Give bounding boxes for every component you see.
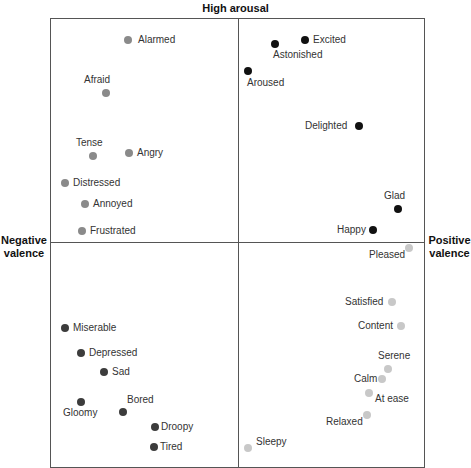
label-astonished: Astonished bbox=[273, 49, 322, 61]
point-glad bbox=[394, 205, 402, 213]
point-happy bbox=[369, 226, 377, 234]
label-annoyed: Annoyed bbox=[93, 198, 132, 210]
label-delighted: Delighted bbox=[305, 120, 347, 132]
label-tense: Tense bbox=[76, 137, 103, 149]
label-angry: Angry bbox=[137, 147, 163, 159]
point-excited bbox=[301, 36, 309, 44]
label-frustrated: Frustrated bbox=[90, 225, 136, 237]
label-alarmed: Alarmed bbox=[138, 34, 175, 46]
label-content: Content bbox=[358, 320, 393, 332]
point-tired bbox=[150, 443, 158, 451]
label-relaxed: Relaxed bbox=[326, 416, 363, 428]
point-annoyed bbox=[81, 200, 89, 208]
label-tired: Tired bbox=[160, 441, 182, 453]
label-sad: Sad bbox=[112, 366, 130, 378]
horizontal-axis-divider bbox=[51, 242, 424, 243]
label-miserable: Miserable bbox=[73, 322, 116, 334]
label-gloomy: Gloomy bbox=[63, 407, 97, 419]
point-alarmed bbox=[124, 36, 132, 44]
point-aroused bbox=[244, 67, 252, 75]
point-depressed bbox=[77, 349, 85, 357]
point-satisfied bbox=[388, 298, 396, 306]
label-pleased: Pleased bbox=[369, 249, 405, 261]
point-calm bbox=[378, 375, 386, 383]
label-at-ease: At ease bbox=[375, 393, 409, 405]
point-bored bbox=[119, 408, 127, 416]
point-gloomy bbox=[77, 398, 85, 406]
point-frustrated bbox=[78, 227, 86, 235]
high-arousal-label: High arousal bbox=[0, 2, 471, 15]
vertical-axis-divider bbox=[238, 19, 239, 467]
point-relaxed bbox=[363, 411, 371, 419]
point-serene bbox=[384, 365, 392, 373]
label-glad: Glad bbox=[384, 190, 405, 202]
point-afraid bbox=[102, 89, 110, 97]
label-happy: Happy bbox=[337, 224, 366, 236]
label-aroused: Aroused bbox=[247, 77, 284, 89]
point-angry bbox=[125, 149, 133, 157]
point-distressed bbox=[61, 179, 69, 187]
point-delighted bbox=[355, 122, 363, 130]
label-afraid: Afraid bbox=[84, 74, 110, 86]
negative-valence-label: Negative valence bbox=[0, 234, 48, 260]
point-sleepy bbox=[244, 444, 252, 452]
point-astonished bbox=[271, 40, 279, 48]
label-distressed: Distressed bbox=[73, 177, 120, 189]
positive-valence-label: Positive valence bbox=[428, 234, 471, 260]
point-at-ease bbox=[365, 389, 373, 397]
point-content bbox=[397, 322, 405, 330]
label-bored: Bored bbox=[127, 394, 154, 406]
label-calm: Calm bbox=[354, 373, 377, 385]
label-excited: Excited bbox=[313, 34, 346, 46]
label-satisfied: Satisfied bbox=[345, 296, 383, 308]
point-sad bbox=[100, 368, 108, 376]
label-depressed: Depressed bbox=[89, 347, 137, 359]
point-miserable bbox=[61, 324, 69, 332]
point-pleased bbox=[405, 244, 413, 252]
point-droopy bbox=[151, 423, 159, 431]
point-tense bbox=[89, 152, 97, 160]
label-sleepy: Sleepy bbox=[256, 436, 287, 448]
label-serene: Serene bbox=[378, 350, 410, 362]
label-droopy: Droopy bbox=[161, 421, 193, 433]
